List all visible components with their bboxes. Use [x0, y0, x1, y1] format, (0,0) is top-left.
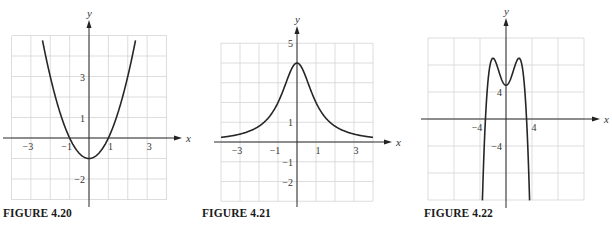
plot-figure-4-22: xy−444−4	[0, 0, 612, 225]
y-axis-arrow-icon	[504, 18, 509, 26]
y-tick-label: 4	[497, 87, 502, 98]
y-tick-label: −4	[491, 141, 502, 152]
figure-caption-4-22: FIGURE 4.22	[424, 207, 493, 219]
y-axis-label: y	[503, 5, 509, 17]
figure-caption-4-21: FIGURE 4.21	[202, 207, 271, 219]
x-axis-label: x	[603, 113, 609, 125]
x-axis-arrow-icon	[592, 117, 600, 122]
x-tick-label: 4	[532, 122, 537, 133]
x-tick-label: −4	[472, 122, 483, 133]
figure-caption-4-20: FIGURE 4.20	[3, 207, 72, 219]
